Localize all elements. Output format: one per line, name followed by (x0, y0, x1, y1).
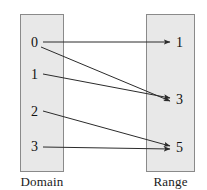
range-element-3: 3 (176, 93, 190, 107)
domain-element-1: 1 (31, 68, 45, 82)
domain-element-2: 2 (31, 105, 45, 119)
mapping-arrow-1-to-3 (43, 74, 170, 98)
range-element-5: 5 (176, 141, 190, 155)
range-element-1: 1 (176, 36, 190, 50)
mapping-arrow-3-to-5 (43, 147, 170, 149)
domain-element-0: 0 (31, 36, 45, 50)
range-caption: Range (143, 174, 198, 190)
mapping-diagram: 0 1 2 3 1 3 5 Domain Range (0, 0, 207, 190)
mapping-arrow-0-to-3 (41, 47, 170, 101)
mapping-arrow-2-to-5 (43, 111, 170, 146)
domain-element-3: 3 (31, 140, 45, 154)
domain-caption: Domain (12, 174, 72, 190)
